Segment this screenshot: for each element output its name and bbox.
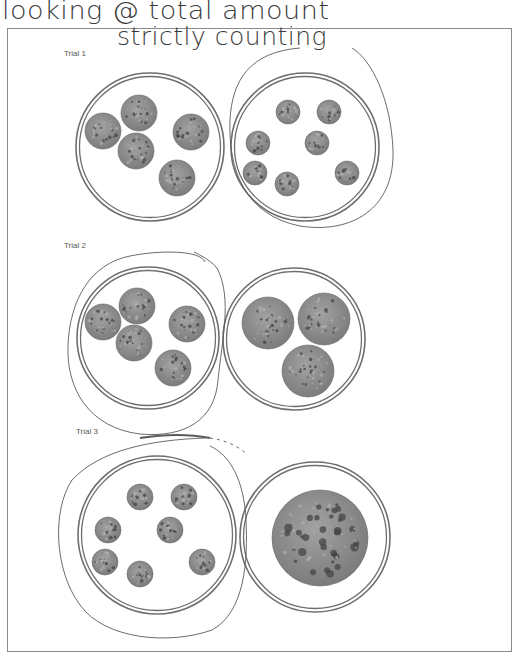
cookie-icon: [246, 131, 270, 155]
cookie-icon: [242, 297, 294, 349]
cookie-icon: [159, 160, 195, 196]
cookie-icon: [272, 490, 368, 586]
plate-trial-2-left: [77, 267, 219, 409]
cookie-icon: [169, 306, 205, 342]
plates-layer: [76, 73, 390, 614]
worksheet-illustration: [0, 0, 528, 662]
plate-trial-1-right: [231, 73, 379, 221]
cookie-icon: [157, 517, 183, 543]
cookie-icon: [171, 484, 197, 510]
cookie-icon: [119, 288, 155, 324]
trial-2-label: Trial 2: [64, 241, 86, 250]
cookie-icon: [305, 131, 329, 155]
trial-3-label: Trial 3: [76, 427, 98, 436]
cookie-icon: [317, 100, 341, 124]
trial-1-label: Trial 1: [64, 49, 86, 58]
cookie-icon: [121, 95, 157, 131]
cookie-icon: [275, 172, 299, 196]
cookie-icon: [298, 293, 350, 345]
cookie-icon: [189, 549, 215, 575]
cookie-icon: [118, 133, 154, 169]
handwritten-note-line-2: strictly counting: [117, 22, 327, 51]
cookie-icon: [127, 561, 153, 587]
cookie-icon: [155, 350, 191, 386]
plate-trial-2-right: [223, 268, 365, 410]
worksheet-page: Trial 1 Trial 2 Trial 3 looking @ total …: [0, 0, 528, 662]
plate-trial-1-left: [76, 73, 224, 221]
cookie-icon: [335, 161, 359, 185]
cookie-icon: [243, 161, 267, 185]
cookie-icon: [92, 549, 118, 575]
cookie-icon: [173, 114, 209, 150]
cookie-icon: [282, 345, 334, 397]
cookie-icon: [95, 517, 121, 543]
cookie-icon: [85, 113, 121, 149]
plate-trial-3-right: [240, 462, 390, 612]
cookie-icon: [116, 325, 152, 361]
cookie-icon: [276, 100, 300, 124]
cookie-icon: [127, 484, 153, 510]
cookie-icon: [85, 304, 121, 340]
plate-trial-3-left: [78, 456, 236, 614]
